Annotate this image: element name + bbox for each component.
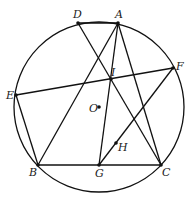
- segment-ef: [16, 68, 173, 95]
- label-o: O: [89, 102, 98, 115]
- point-d: [76, 21, 80, 25]
- label-f: F: [175, 60, 184, 73]
- label-e: E: [5, 89, 14, 102]
- geometry-diagram: D A E F I O H B G C: [0, 0, 188, 199]
- label-b: B: [28, 166, 37, 179]
- label-g: G: [95, 167, 104, 180]
- point-f: [171, 66, 175, 70]
- label-c: C: [162, 166, 171, 179]
- label-a: A: [114, 8, 123, 21]
- segment-ab: [38, 23, 118, 165]
- point-e: [14, 93, 18, 97]
- label-i: I: [110, 66, 116, 79]
- label-d: D: [72, 8, 82, 21]
- label-h: H: [117, 141, 128, 154]
- segment-eb: [16, 95, 38, 165]
- point-a: [116, 21, 120, 25]
